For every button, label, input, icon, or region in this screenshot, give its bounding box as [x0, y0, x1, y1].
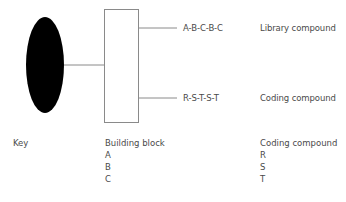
key-coding-compound-column: Coding compound R S T [260, 137, 337, 185]
building-block-item: A [105, 149, 165, 161]
coding-compound-item: R [260, 149, 337, 161]
coding-compound-item: T [260, 173, 337, 185]
library-compound-label: Library compound [260, 22, 336, 34]
key-title: Key [13, 137, 28, 149]
building-block-box [105, 10, 139, 123]
key-building-block-column: Building block A B C [105, 137, 165, 185]
coding-compound-item: S [260, 161, 337, 173]
coding-sequence: R-S-T-S-T [183, 92, 219, 104]
coding-compound-label: Coding compound [260, 92, 336, 104]
solid-support-bead [26, 17, 64, 113]
building-block-header: Building block [105, 137, 165, 149]
coding-compound-header: Coding compound [260, 137, 337, 149]
library-sequence: A-B-C-B-C [183, 22, 223, 34]
building-block-item: C [105, 173, 165, 185]
building-block-item: B [105, 161, 165, 173]
